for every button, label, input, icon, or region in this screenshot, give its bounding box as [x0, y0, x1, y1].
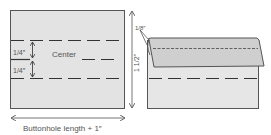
folded-patch: 1/8″	[135, 25, 264, 109]
fold-flap	[148, 38, 264, 67]
fold-leader-1	[140, 30, 149, 40]
fold-depth-label: 1/8″	[135, 25, 146, 31]
height-label: 1 1/2″	[133, 53, 140, 72]
width-dimension: Buttonhole length + 1″	[11, 118, 125, 133]
quarter-label-bottom: 1/4″	[13, 67, 26, 74]
flat-patch: 1/4″ 1/4″ Center	[11, 11, 125, 109]
quarter-label-top: 1/4″	[13, 49, 26, 56]
buttonhole-diagram: 1/4″ 1/4″ Center Buttonhole length + 1″ …	[0, 0, 271, 135]
width-label: Buttonhole length + 1″	[23, 124, 102, 133]
fold-leader-2	[140, 30, 147, 45]
center-label: Center	[52, 50, 76, 59]
